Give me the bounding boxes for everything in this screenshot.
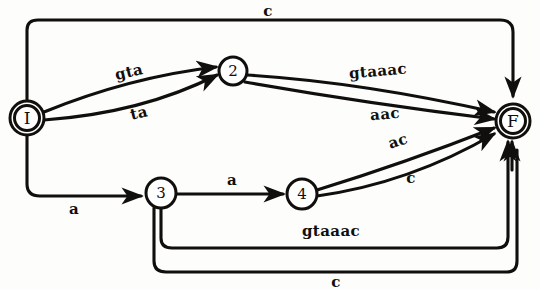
edge-label-4-F-ac: ac (386, 129, 410, 152)
edge-3-to-4-a: a (176, 171, 283, 194)
automaton-canvas: c gta ta gtaaac aac a a (0, 0, 540, 290)
automaton-diagram: c gta ta gtaaac aac a a (0, 0, 540, 290)
node-2[interactable]: 2 (219, 57, 247, 85)
edge-path-3-F-c (154, 150, 517, 272)
edge-path-I-F-c (27, 20, 513, 101)
node-I-label: I (24, 108, 31, 128)
edge-I-to-3-a: a (27, 135, 141, 218)
node-F[interactable]: F (496, 104, 530, 138)
edge-label-2-F-gtaaac: gtaaac (348, 60, 407, 83)
node-3[interactable]: 3 (146, 178, 176, 208)
node-4[interactable]: 4 (287, 179, 317, 209)
edge-label-I-F-c: c (263, 2, 273, 20)
edge-path-I-3-a (27, 135, 141, 196)
edge-2-to-F-gtaaac: gtaaac (247, 60, 494, 112)
edge-label-3-F-gtaaac: gtaaac (302, 222, 360, 240)
edge-label-3-4-a: a (227, 171, 237, 189)
node-4-label: 4 (297, 185, 307, 203)
edge-3-to-F-c: c (154, 150, 517, 290)
edge-label-3-F-c: c (331, 273, 341, 290)
edge-label-2-F-aac: aac (369, 104, 400, 125)
node-I[interactable]: I (10, 101, 44, 135)
edge-label-4-F-c: c (406, 169, 416, 187)
node-3-label: 3 (156, 184, 166, 202)
edge-label-I-3-a: a (69, 200, 79, 218)
edge-label-I-2-ta: ta (128, 102, 149, 123)
node-F-label: F (507, 111, 519, 131)
node-2-label: 2 (228, 62, 238, 80)
